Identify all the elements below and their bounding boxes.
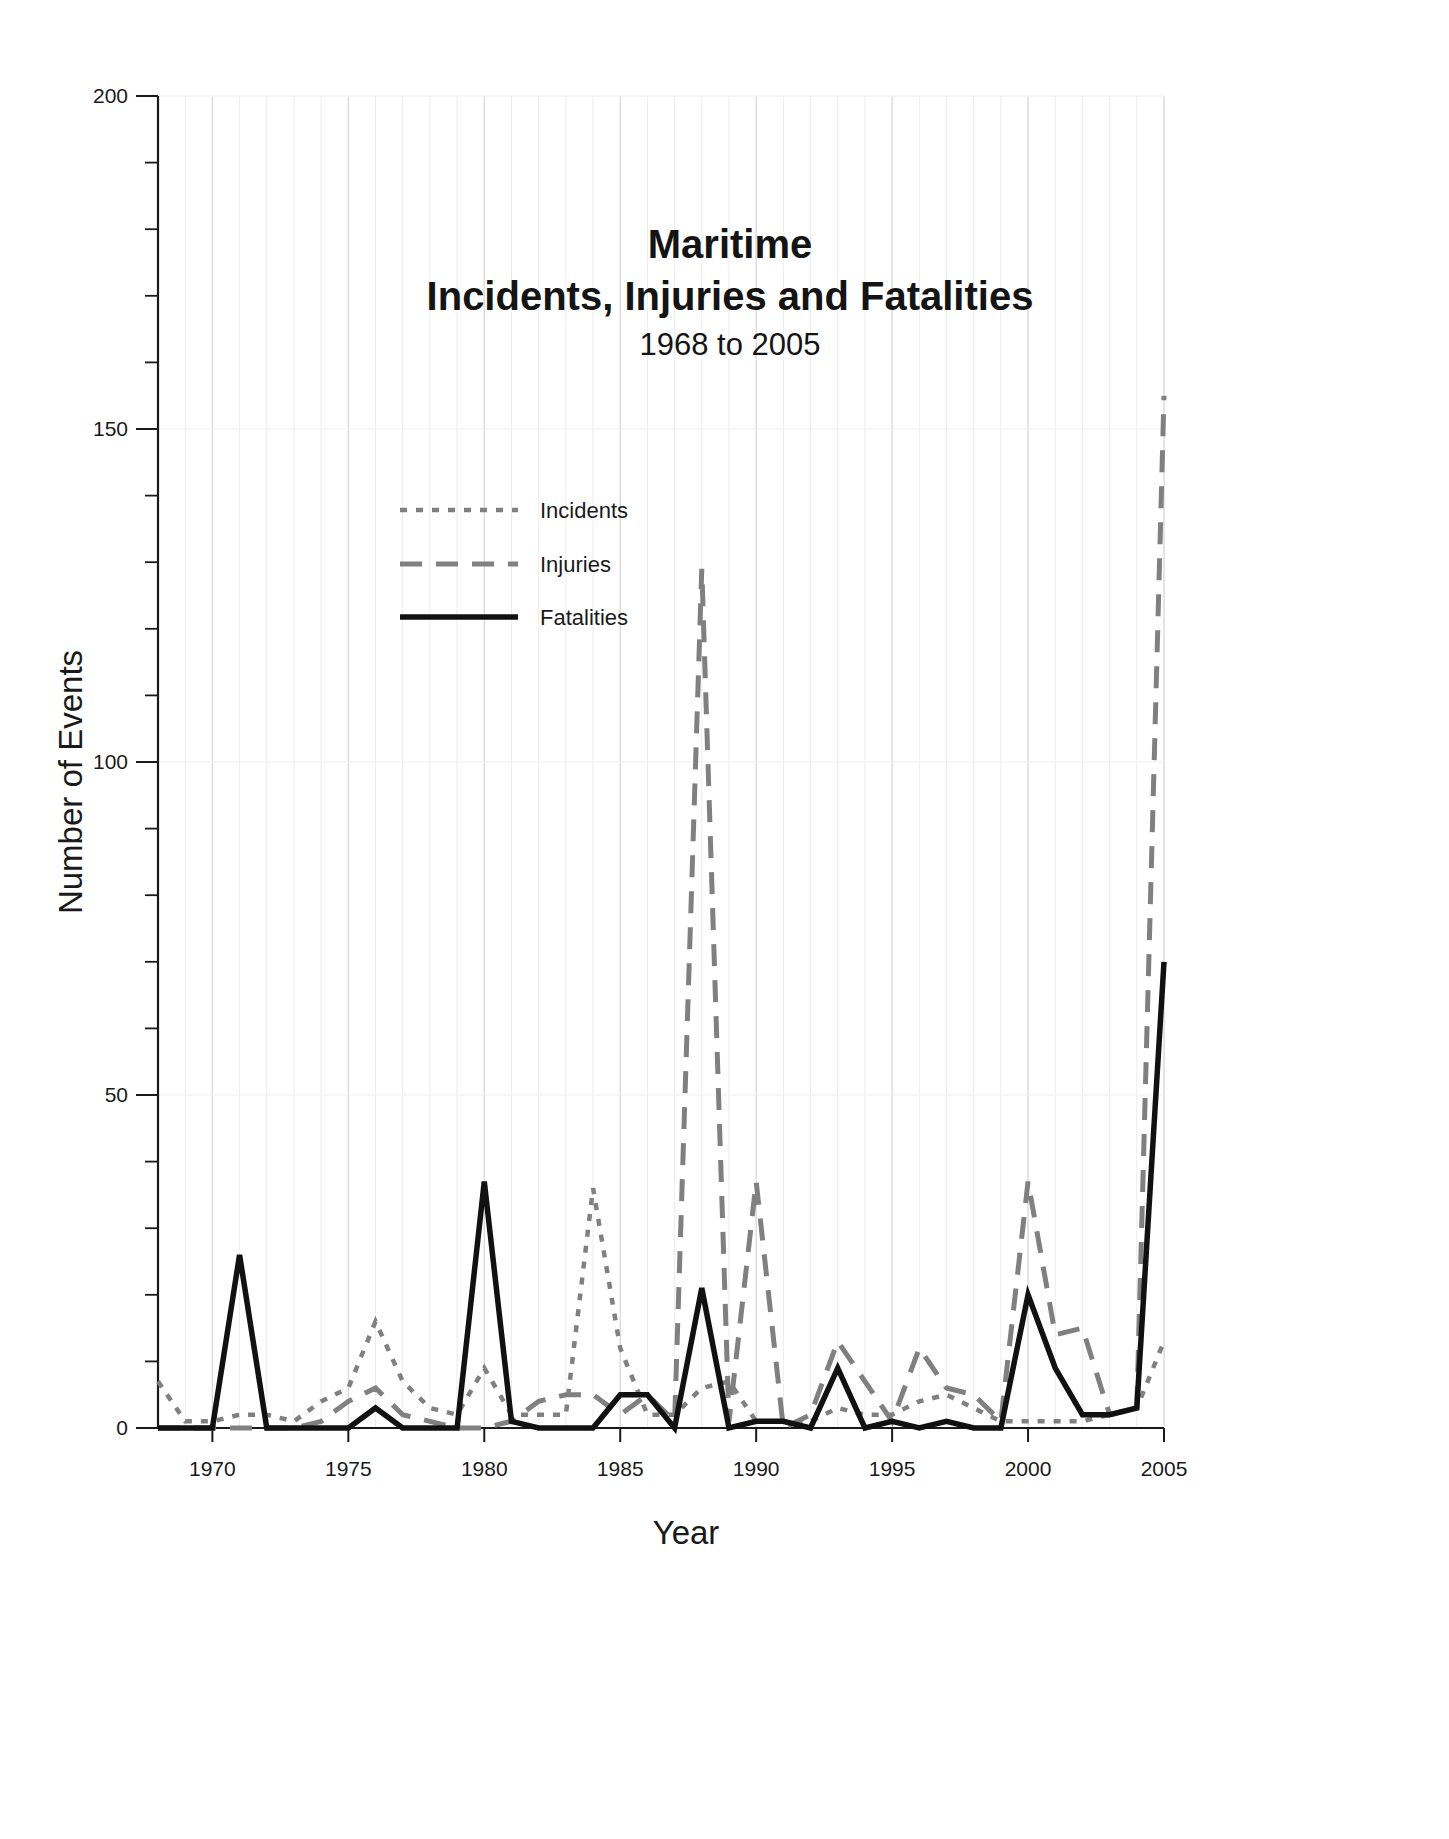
y-tick-label-100: 100 xyxy=(93,750,128,773)
x-axis-label: Year xyxy=(653,1514,720,1551)
x-tick-label-1980: 1980 xyxy=(461,1457,508,1480)
chart-title-line1: Maritime xyxy=(648,222,813,266)
legend-label-fatalities: Fatalities xyxy=(540,605,628,630)
x-tick-label-2005: 2005 xyxy=(1141,1457,1188,1480)
x-tick-label-1990: 1990 xyxy=(733,1457,780,1480)
legend-label-injuries: Injuries xyxy=(540,552,611,577)
chart-subtitle: 1968 to 2005 xyxy=(639,327,820,362)
y-tick-label-200: 200 xyxy=(93,84,128,107)
chart-title-line2: Incidents, Injuries and Fatalities xyxy=(427,274,1034,318)
y-tick-label-150: 150 xyxy=(93,417,128,440)
y-tick-label-50: 50 xyxy=(105,1083,128,1106)
y-axis-label: Number of Events xyxy=(52,650,89,914)
chart-page: 050100150200 197019751980198519901995200… xyxy=(0,0,1449,1839)
legend-label-incidents: Incidents xyxy=(540,498,628,523)
y-tick-label-0: 0 xyxy=(116,1416,128,1439)
x-tick-label-2000: 2000 xyxy=(1005,1457,1052,1480)
x-tick-label-1975: 1975 xyxy=(325,1457,372,1480)
x-tick-label-1970: 1970 xyxy=(189,1457,236,1480)
x-tick-label-1995: 1995 xyxy=(869,1457,916,1480)
maritime-line-chart: 050100150200 197019751980198519901995200… xyxy=(0,0,1449,1839)
x-tick-label-1985: 1985 xyxy=(597,1457,644,1480)
